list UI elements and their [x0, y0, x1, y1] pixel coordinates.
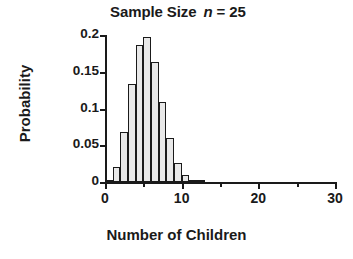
bar	[136, 45, 144, 182]
x-tick-label-0: 0	[101, 190, 109, 206]
bar	[159, 102, 167, 182]
bar	[197, 180, 205, 182]
x-axis-title: Number of Children	[0, 226, 353, 243]
x-tick-major-3	[335, 182, 337, 189]
bar	[166, 138, 174, 182]
bar	[189, 180, 197, 182]
x-tick-major-0	[105, 182, 107, 189]
x-tick-label-3: 30	[327, 190, 343, 206]
bar-series	[105, 35, 336, 182]
y-axis-tick-labels: 00.050.10.150.2	[47, 35, 99, 195]
x-tick-label-2: 20	[251, 190, 267, 206]
plot-area	[105, 35, 335, 183]
x-tick-minor-0	[143, 182, 145, 187]
bar	[174, 163, 182, 182]
bar	[143, 37, 151, 182]
x-tick-label-1: 10	[174, 190, 190, 206]
bar	[105, 180, 113, 182]
y-tick-label-0: 0	[91, 173, 99, 188]
y-tick-label-4: 0.2	[80, 26, 99, 41]
x-tick-major-2	[258, 182, 260, 189]
bar	[182, 175, 190, 182]
bar	[128, 84, 136, 182]
y-axis-title: Probability	[16, 34, 33, 174]
chart-title-variable: n	[196, 3, 212, 20]
bar	[151, 62, 159, 182]
y-tick-label-2: 0.1	[80, 100, 99, 115]
y-tick-label-1: 0.05	[73, 136, 99, 151]
y-tick-label-3: 0.15	[73, 63, 99, 78]
x-tick-minor-1	[220, 182, 222, 187]
chart-figure: Sample Sizen = 25 00.050.10.150.2 010203…	[0, 0, 353, 259]
chart-title: Sample Sizen = 25	[110, 3, 330, 20]
x-tick-minor-2	[297, 182, 299, 187]
x-axis-tick-labels: 0102030	[0, 190, 353, 214]
chart-title-prefix: Sample Size	[110, 3, 196, 20]
bar	[113, 167, 121, 182]
bar	[120, 132, 128, 182]
x-tick-major-1	[182, 182, 184, 189]
chart-title-value: = 25	[217, 3, 246, 20]
